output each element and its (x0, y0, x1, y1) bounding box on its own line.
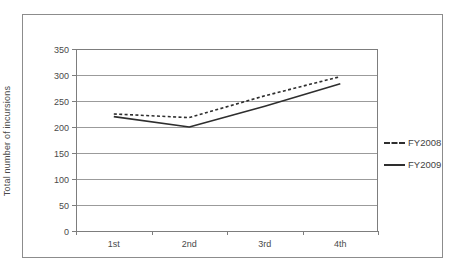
x-tick-label: 1st (108, 239, 121, 249)
plot-area-border (77, 50, 378, 232)
solid-line-sample-icon (384, 164, 405, 166)
y-tick-label: 250 (54, 97, 69, 107)
x-tick-label: 4th (334, 239, 347, 249)
y-tick-label: 350 (54, 45, 69, 55)
legend-item-fy2008: FY2008 (384, 136, 441, 149)
y-tick-label: 200 (54, 123, 69, 133)
figure-border (23, 15, 443, 258)
y-tick-label: 0 (64, 227, 69, 237)
y-tick-label: 150 (54, 149, 69, 159)
legend: FY2008 FY2009 (384, 136, 441, 171)
dashed-line-sample-icon (384, 142, 405, 144)
x-tick-label: 3rd (258, 239, 271, 249)
legend-label: FY2009 (408, 159, 441, 170)
legend-item-fy2009: FY2009 (384, 158, 441, 171)
series-line-fy2009 (114, 84, 340, 127)
series-line-fy2008 (114, 77, 340, 118)
y-axis-title: Total number of incursions (2, 76, 16, 206)
y-tick-label: 50 (59, 201, 69, 211)
y-tick-label: 100 (54, 175, 69, 185)
legend-label: FY2008 (408, 137, 441, 148)
y-tick-label: 300 (54, 71, 69, 81)
x-tick-label: 2nd (182, 239, 197, 249)
chart-figure: 0501001502002503003501st2nd3rd4th Total … (0, 0, 464, 277)
